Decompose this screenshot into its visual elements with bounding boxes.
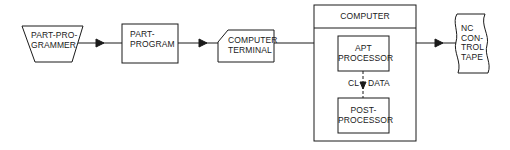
part-program-label: PART- PROGRAM [130,30,175,49]
data-label: DATA [368,79,390,89]
part-programmer-label: PART-PRO- GRAMMER [31,31,77,50]
arrow-icon [96,39,104,47]
arrow-down-icon [360,82,366,89]
arrow-icon [199,39,207,47]
computer-title: COMPUTER [314,12,416,22]
apt-processor-label: APT PROCESSOR [338,44,389,63]
computer-terminal-label: COMPUTER TERMINAL [228,36,277,55]
arrow-icon [435,39,443,47]
nc-control-tape-label: NC CON- TROL TAPE [461,24,484,62]
post-processor-label: POST- PROCESSOR [338,106,389,125]
cl-label: CL [348,79,359,89]
flow-diagram [0,0,510,150]
